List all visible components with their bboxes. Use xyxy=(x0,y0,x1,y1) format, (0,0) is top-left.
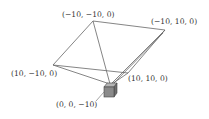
camera-leader-line xyxy=(96,92,104,101)
camera-cube-icon xyxy=(104,83,117,97)
ray-top xyxy=(93,21,110,84)
label-right-vertex: (−10, 10, 0) xyxy=(151,18,197,26)
label-top-vertex: (−10, −10, 0) xyxy=(62,11,114,19)
label-left-vertex: (10, −10, 0) xyxy=(11,70,57,78)
label-camera: (0, 0, −10) xyxy=(56,101,97,109)
label-lower-right-vertex: (10, 10, 0) xyxy=(128,75,168,83)
cube-front-face xyxy=(104,87,114,97)
camera-pyramid-diagram: (−10, −10, 0) (−10, 10, 0) (10, −10, 0) … xyxy=(0,0,209,119)
edge-top-left xyxy=(53,21,93,65)
